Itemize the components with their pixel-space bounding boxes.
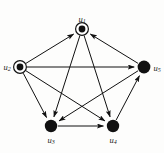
node-label-u5: u5	[153, 63, 160, 74]
node-label-sub-u4: 4	[114, 140, 117, 146]
node-core-u4	[107, 120, 119, 132]
node-label-u4: u4	[109, 135, 116, 146]
node-core-u1	[79, 26, 86, 33]
graph-figure: u1u2u3u4u5	[0, 0, 164, 153]
node-label-sub-u3: 3	[51, 140, 55, 146]
graph-edge-u1-to-u3	[54, 36, 80, 117]
node-label-sub-u2: 2	[8, 67, 11, 73]
directed-graph-canvas: u1u2u3u4u5	[0, 0, 164, 153]
edge-layer	[23, 34, 139, 126]
graph-node-u3[interactable]	[45, 120, 57, 132]
node-label-sub-u1: 1	[83, 19, 86, 25]
node-label-sub-u5: 5	[158, 68, 161, 74]
graph-edge-u5-to-u3	[59, 71, 138, 121]
graph-node-u4[interactable]	[107, 120, 119, 132]
node-core-u3	[45, 120, 57, 132]
graph-edge-u5-to-u1	[90, 34, 138, 63]
graph-edge-u2-to-u1	[26, 34, 74, 63]
graph-edge-u1-to-u4	[84, 36, 110, 117]
node-label-u1: u1	[78, 14, 85, 25]
node-label-u3: u3	[47, 135, 54, 146]
node-core-u5	[138, 61, 151, 74]
graph-node-u2[interactable]	[14, 61, 27, 74]
graph-node-u5[interactable]	[138, 61, 151, 74]
graph-edge-u2-to-u4	[26, 71, 105, 121]
node-layer	[14, 23, 151, 133]
node-core-u2	[17, 64, 24, 71]
graph-edge-u2-to-u3	[23, 73, 46, 117]
node-label-u2: u2	[3, 62, 10, 73]
